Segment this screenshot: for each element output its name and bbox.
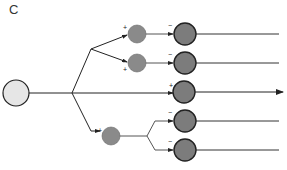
sign-s2: + — [123, 66, 127, 73]
large-node-3 — [173, 81, 195, 103]
sign-l4: − — [168, 109, 172, 116]
sign-l5: − — [168, 138, 172, 145]
s3-to-l4 — [120, 121, 173, 136]
sign-l1: − — [168, 22, 172, 29]
large-node-5 — [174, 139, 196, 161]
small-node-3 — [102, 127, 120, 145]
upper-branch-line — [72, 49, 91, 93]
lineage-diagram: + + + − − + − − — [0, 0, 287, 170]
large-node-2 — [174, 52, 196, 74]
small-node-2 — [128, 54, 146, 72]
sign-s1: + — [123, 24, 127, 31]
sign-l2: − — [168, 51, 172, 58]
small-node-1 — [128, 25, 146, 43]
sign-s3: + — [98, 127, 102, 134]
large-node-4 — [174, 110, 196, 132]
branch-to-s2 — [91, 49, 127, 62]
branch-to-s1 — [91, 35, 127, 49]
lower-branch-line — [72, 93, 100, 131]
large-node-1 — [174, 23, 196, 45]
root-node — [3, 80, 29, 106]
sign-l3: + — [169, 82, 173, 89]
